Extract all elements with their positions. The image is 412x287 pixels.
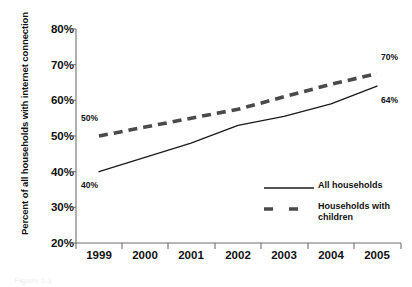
chart-figure: Percent of all households with internet … [0, 0, 412, 287]
annotation-start-children: 50% [81, 113, 98, 123]
x-tick-1999: 1999 [86, 249, 112, 261]
x-tick-2000: 2000 [132, 249, 158, 261]
legend-item-all-households: All households [262, 180, 412, 192]
chart-legend: All households Households with children [262, 180, 412, 231]
x-tick-2005: 2005 [364, 249, 390, 261]
x-tick-2002: 2002 [225, 249, 251, 261]
series-line-households-with-children [99, 74, 377, 136]
series-line-all-households [99, 86, 377, 172]
annotation-end-all: 64% [381, 95, 398, 105]
legend-swatch-solid-icon [262, 180, 318, 192]
plot-area [0, 0, 412, 287]
legend-item-households-with-children: Households with children [262, 201, 412, 222]
figure-caption: Figure 1.1 [14, 276, 52, 285]
legend-swatch-dashed-icon [262, 201, 318, 213]
annotation-start-all: 40% [81, 180, 98, 190]
annotation-end-children: 70% [381, 52, 398, 62]
x-tick-2004: 2004 [318, 249, 344, 261]
x-tick-2003: 2003 [271, 249, 297, 261]
legend-label-all-households: All households [318, 180, 383, 191]
legend-label-households-with-children: Households with children [318, 201, 412, 222]
x-tick-2001: 2001 [178, 249, 204, 261]
